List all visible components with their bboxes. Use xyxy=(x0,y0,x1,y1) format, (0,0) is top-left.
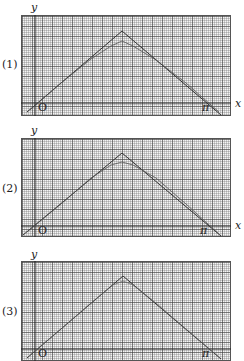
triangle-function-line-1 xyxy=(27,31,221,115)
panel-label-2: (2) xyxy=(2,182,18,195)
y-axis-label-1: y xyxy=(31,1,37,14)
panel-label-1: (1) xyxy=(2,58,18,71)
plot-lines-1 xyxy=(21,15,231,116)
origin-label-1: O xyxy=(38,101,47,114)
triangle-function-line-3 xyxy=(27,276,221,359)
plot-area-3: O π xyxy=(21,261,231,361)
y-axis-label-2: y xyxy=(31,124,37,137)
triangle-function-line-2 xyxy=(23,153,221,236)
approximation-curve-1 xyxy=(30,41,219,112)
plot-area-2: O π xyxy=(21,138,231,237)
pi-label-2: π xyxy=(200,224,207,237)
origin-label-3: O xyxy=(38,347,47,360)
y-axis-label-3: y xyxy=(31,248,37,261)
panel-label-3: (3) xyxy=(2,305,18,318)
plot-lines-2 xyxy=(21,138,231,237)
x-axis-label-2: x xyxy=(235,219,241,232)
x-axis-label-1: x xyxy=(235,97,241,110)
plot-lines-3 xyxy=(21,261,231,361)
pi-label-3: π xyxy=(202,347,209,360)
approximation-curve-2 xyxy=(27,162,219,234)
origin-label-2: O xyxy=(38,224,47,237)
pi-label-1: π xyxy=(202,101,209,114)
approximation-curve-3 xyxy=(30,281,219,357)
plot-area-1: O π xyxy=(21,15,231,116)
